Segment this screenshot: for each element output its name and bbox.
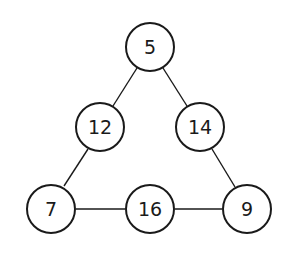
node-label: 14 (188, 116, 212, 138)
node-bottom-left: 7 (27, 185, 75, 233)
node-bottom-mid: 16 (126, 185, 174, 233)
node-mid-right: 14 (176, 103, 224, 151)
edge-top-midleft (113, 68, 137, 106)
node-label: 12 (88, 116, 112, 138)
number-triangle-diagram: 5 12 14 7 16 9 (0, 0, 291, 258)
node-label: 16 (138, 198, 162, 220)
node-label: 7 (45, 198, 57, 220)
edge-midleft-bottomleft (64, 149, 88, 186)
edge-top-midright (163, 68, 187, 106)
node-label: 9 (241, 198, 253, 220)
edge-midright-bottomright (212, 149, 235, 187)
node-bottom-right: 9 (223, 185, 271, 233)
node-label: 5 (144, 36, 156, 58)
node-mid-left: 12 (76, 103, 124, 151)
node-top: 5 (126, 23, 174, 71)
